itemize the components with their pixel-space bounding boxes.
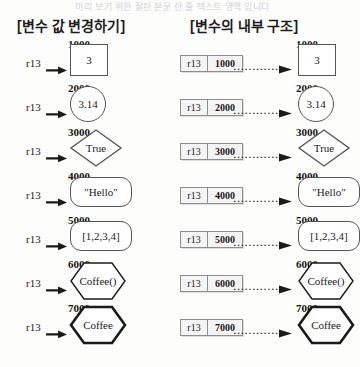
reference-box-name-cell: r13	[181, 100, 208, 115]
value-text: "Hello"	[312, 187, 345, 198]
value-text: 3	[314, 55, 320, 66]
value-text: Coffee()	[79, 276, 116, 287]
right-panel-title: [변수의 내부 구조]	[190, 15, 298, 35]
diagram-row: r1310003r13100010003	[0, 38, 345, 82]
reference-box-name-cell: r13	[181, 276, 208, 291]
right-memory-structure: r1370007000Coffee	[172, 302, 345, 346]
value-shape-rounded-rect: "Hello"	[70, 177, 132, 207]
pointer-arrow-icon	[234, 104, 294, 113]
diagram-row: r136000Coffee()r1360006000Coffee()	[0, 258, 345, 302]
right-memory-structure: r1360006000Coffee()	[172, 258, 345, 302]
reference-box-name-cell: r13	[181, 232, 208, 247]
pointer-arrow-icon	[234, 60, 294, 69]
value-shape-rect: 3	[298, 44, 336, 76]
value-shape-rounded-rect: [1,2,3,4]	[70, 221, 132, 251]
value-text: [1,2,3,4]	[82, 231, 120, 242]
left-variable-binding: r135000[1,2,3,4]	[0, 214, 172, 258]
left-panel-title: [변수 값 변경하기]	[17, 15, 125, 35]
value-shape-diamond: True	[298, 129, 350, 167]
binding-arrow-icon	[46, 237, 68, 245]
value-shape-rounded-rect: "Hello"	[298, 177, 360, 207]
binding-arrow-icon	[46, 149, 68, 157]
pointer-arrow-icon	[234, 148, 294, 157]
right-memory-structure: r13100010003	[172, 38, 345, 82]
right-memory-structure: r13200020003.14	[172, 82, 345, 126]
value-shape-rounded-rect: [1,2,3,4]	[298, 221, 360, 251]
pointer-arrow-icon	[234, 236, 294, 245]
variable-name-label: r13	[26, 146, 41, 157]
reference-box-name-cell: r13	[181, 320, 208, 335]
value-text: 3.14	[78, 99, 97, 110]
right-memory-structure: r1340004000"Hello"	[172, 170, 345, 214]
diagram-row: r137000Coffeer1370007000Coffee	[0, 302, 345, 346]
left-variable-binding: r1320003.14	[0, 82, 172, 126]
value-text: 3.14	[306, 99, 325, 110]
reference-box-name-cell: r13	[181, 144, 208, 159]
binding-arrow-icon	[46, 105, 68, 113]
value-text: True	[314, 143, 334, 154]
binding-arrow-icon	[46, 325, 68, 333]
value-text: Coffee	[311, 320, 341, 331]
value-shape-hexagon: Coffee()	[298, 261, 354, 301]
diagram-row: r134000"Hello"r1340004000"Hello"	[0, 170, 345, 214]
value-shape-hexagon-bold: Coffee	[70, 305, 126, 345]
left-variable-binding: r133000True	[0, 126, 172, 170]
left-variable-binding: r134000"Hello"	[0, 170, 172, 214]
value-shape-diamond: True	[70, 129, 122, 167]
reference-box-name-cell: r13	[181, 188, 208, 203]
value-shape-hexagon: Coffee()	[70, 261, 126, 301]
reference-box-name-cell: r13	[181, 56, 208, 71]
value-text: Coffee	[83, 320, 113, 331]
variable-name-label: r13	[26, 234, 41, 245]
left-variable-binding: r1310003	[0, 38, 172, 82]
binding-arrow-icon	[46, 61, 68, 69]
left-variable-binding: r136000Coffee()	[0, 258, 172, 302]
diagram-row: r1320003.14r13200020003.14	[0, 82, 345, 126]
cut-off-text-strip: 미리 보기 위한 잘린 본문 한 줄 텍스트 영역 입니다	[0, 0, 345, 12]
left-variable-binding: r137000Coffee	[0, 302, 172, 346]
right-memory-structure: r1330003000True	[172, 126, 345, 170]
variable-name-label: r13	[26, 190, 41, 201]
pointer-arrow-icon	[234, 192, 294, 201]
diagram-row: r133000Truer1330003000True	[0, 126, 345, 170]
variable-name-label: r13	[26, 322, 41, 333]
binding-arrow-icon	[46, 281, 68, 289]
variable-name-label: r13	[26, 102, 41, 113]
variable-name-label: r13	[26, 58, 41, 69]
value-text: Coffee()	[307, 276, 344, 287]
variable-name-label: r13	[26, 278, 41, 289]
value-text: "Hello"	[84, 187, 117, 198]
pointer-arrow-icon	[234, 324, 294, 333]
value-shape-rect: 3	[70, 44, 108, 76]
value-shape-circle: 3.14	[298, 86, 334, 122]
pointer-arrow-icon	[234, 280, 294, 289]
right-memory-structure: r1350005000[1,2,3,4]	[172, 214, 345, 258]
value-text: True	[86, 143, 106, 154]
value-shape-circle: 3.14	[70, 86, 106, 122]
diagram-row: r135000[1,2,3,4]r1350005000[1,2,3,4]	[0, 214, 345, 258]
binding-arrow-icon	[46, 193, 68, 201]
value-text: 3	[86, 55, 92, 66]
value-text: [1,2,3,4]	[310, 231, 348, 242]
value-shape-hexagon-bold: Coffee	[298, 305, 354, 345]
